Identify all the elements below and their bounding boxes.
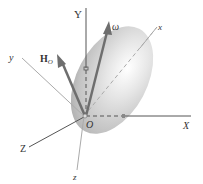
label-H: HO <box>40 53 53 66</box>
label-Z: Z <box>20 143 26 154</box>
label-Y: Y <box>74 8 82 20</box>
label-x: x <box>157 22 162 32</box>
label-O: O <box>86 119 93 130</box>
origin-point <box>83 114 87 118</box>
label-omega: ω <box>112 21 119 32</box>
label-X: X <box>182 120 190 131</box>
diagram-canvas: Y ω x y HO O X Z z <box>0 0 203 184</box>
label-H-subscript: O <box>48 58 53 66</box>
fixed-axis-Z <box>29 117 84 147</box>
omega-arrowhead-icon <box>103 21 112 35</box>
X-axis-marker <box>122 114 125 118</box>
label-z: z <box>72 172 77 182</box>
label-y: y <box>8 52 14 63</box>
